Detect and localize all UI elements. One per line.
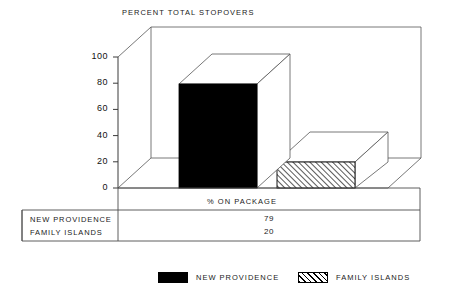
y-tick-label-40: 40 bbox=[82, 130, 108, 140]
table-row-label-family-islands: FAMILY ISLANDS bbox=[30, 228, 103, 237]
y-tick-label-20: 20 bbox=[82, 156, 108, 166]
solid-black-swatch-icon bbox=[158, 272, 188, 283]
y-axis bbox=[113, 57, 118, 188]
table-row-value-new-providence: 79 bbox=[118, 214, 420, 223]
bar-new-providence[interactable] bbox=[179, 54, 290, 188]
x-axis-caption: % ON PACKAGE bbox=[0, 197, 468, 206]
x-axis-caption-text: % ON PACKAGE bbox=[207, 197, 277, 206]
table-row-value-family-islands: 20 bbox=[118, 227, 420, 236]
diagonal-hatch-swatch-icon bbox=[298, 272, 328, 283]
bar-family-islands[interactable] bbox=[277, 132, 388, 188]
y-tick-label-80: 80 bbox=[82, 77, 108, 87]
y-tick-label-100: 100 bbox=[82, 51, 108, 61]
legend-label-new-providence: NEW PROVIDENCE bbox=[196, 273, 279, 282]
table-row-label-new-providence: NEW PROVIDENCE bbox=[30, 215, 112, 224]
bar-new-providence-front-face bbox=[179, 84, 257, 188]
chart-plot-area bbox=[0, 0, 468, 295]
chart-figure: PERCENT TOTAL STOPOVERS bbox=[0, 0, 468, 295]
chart-legend: NEW PROVIDENCE FAMILY ISLANDS bbox=[0, 270, 468, 286]
legend-label-family-islands: FAMILY ISLANDS bbox=[336, 273, 410, 282]
bar-family-islands-front-face bbox=[277, 162, 355, 188]
y-tick-label-60: 60 bbox=[82, 103, 108, 113]
y-tick-label-0: 0 bbox=[82, 182, 108, 192]
